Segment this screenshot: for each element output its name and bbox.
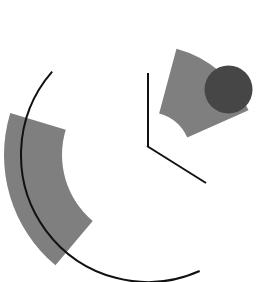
solid-dot xyxy=(205,66,253,114)
abstract-figure xyxy=(0,0,274,282)
upper-wedge-segment xyxy=(4,113,93,265)
figure-canvas xyxy=(0,0,274,282)
diagonal-radius-line xyxy=(147,146,206,183)
